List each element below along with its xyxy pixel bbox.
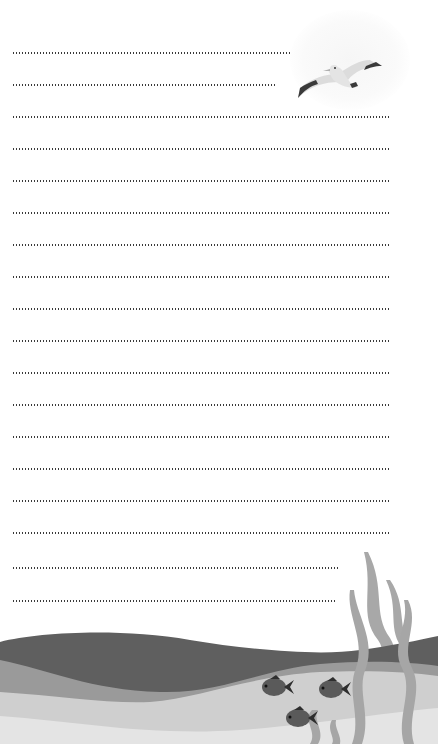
seagull-icon [290, 44, 386, 100]
writing-line [12, 308, 390, 310]
writing-line [12, 116, 390, 118]
writing-line [12, 404, 390, 406]
writing-line [12, 180, 390, 182]
ocean-scene [0, 540, 438, 744]
writing-line [12, 148, 390, 150]
writing-line [12, 532, 390, 534]
writing-line [12, 436, 390, 438]
writing-line [12, 340, 390, 342]
writing-line [12, 372, 390, 374]
writing-line [12, 52, 292, 54]
writing-line [12, 500, 390, 502]
writing-line [12, 244, 390, 246]
writing-line [12, 276, 390, 278]
writing-line [12, 468, 390, 470]
writing-line [12, 84, 277, 86]
writing-line [12, 212, 390, 214]
